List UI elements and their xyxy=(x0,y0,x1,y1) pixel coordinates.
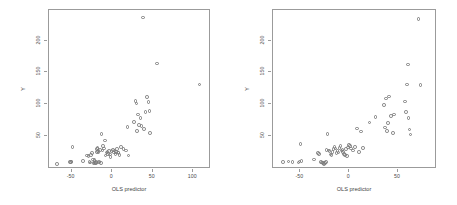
data-point xyxy=(109,155,113,159)
y-tick-mark xyxy=(268,40,271,41)
y-tick-label: 150 xyxy=(259,67,265,76)
data-point xyxy=(135,129,139,133)
data-points-right xyxy=(273,10,435,167)
chart-panel-right: -50050 50100150200 OLS predictor Y xyxy=(229,0,457,205)
x-tick-label: -50 xyxy=(67,173,75,179)
data-point xyxy=(386,121,390,125)
y-tick-label: 100 xyxy=(259,99,265,108)
data-point xyxy=(385,129,389,133)
x-tick-mark xyxy=(71,169,72,172)
data-point xyxy=(408,128,412,132)
data-point xyxy=(281,160,285,164)
data-point xyxy=(312,158,316,162)
figure-scatter-pair: -50050100 50100150200 OLS predictor Y -5… xyxy=(0,0,457,205)
data-point xyxy=(103,139,107,143)
data-point xyxy=(392,113,396,117)
data-point xyxy=(359,130,363,134)
data-point xyxy=(99,161,103,165)
data-point xyxy=(118,153,122,157)
y-tick-label: 200 xyxy=(35,35,41,44)
data-point xyxy=(355,127,359,131)
data-point xyxy=(148,109,152,113)
data-point xyxy=(287,160,291,164)
data-point xyxy=(81,159,85,163)
data-point xyxy=(403,100,407,104)
data-point xyxy=(139,116,143,120)
x-tick-label: 50 xyxy=(394,173,400,179)
data-point xyxy=(419,83,423,87)
data-point xyxy=(351,149,355,153)
data-point xyxy=(300,159,304,163)
data-point xyxy=(100,132,104,136)
y-axis-label-right: Y xyxy=(244,87,250,91)
y-tick-label: 150 xyxy=(35,67,41,76)
y-tick-label: 50 xyxy=(259,132,265,138)
data-point xyxy=(353,145,357,149)
y-tick-mark xyxy=(44,135,47,136)
plot-frame-right xyxy=(272,9,436,168)
data-point xyxy=(198,83,202,87)
y-tick-mark xyxy=(44,103,47,104)
data-point xyxy=(409,133,413,137)
data-point xyxy=(361,146,365,150)
data-point xyxy=(317,152,321,156)
y-tick-mark xyxy=(268,103,271,104)
data-point xyxy=(71,145,75,149)
data-point xyxy=(407,116,411,120)
data-point xyxy=(124,149,128,153)
data-point xyxy=(141,16,145,20)
x-tick-label: 100 xyxy=(188,173,197,179)
data-point xyxy=(155,62,159,66)
data-point xyxy=(126,125,130,129)
x-tick-mark xyxy=(192,169,193,172)
data-points-left xyxy=(49,10,209,167)
data-point xyxy=(132,120,136,124)
plot-frame-left xyxy=(48,9,210,168)
x-tick-mark xyxy=(348,169,349,172)
x-tick-label: 50 xyxy=(149,173,155,179)
data-point xyxy=(404,110,408,114)
data-point xyxy=(147,100,151,104)
data-point xyxy=(144,110,148,114)
data-point xyxy=(387,95,391,99)
data-point xyxy=(291,160,295,164)
x-axis-label-right: OLS predictor xyxy=(337,186,372,192)
data-point xyxy=(330,153,334,157)
data-point xyxy=(417,17,421,21)
y-tick-mark xyxy=(44,71,47,72)
y-tick-mark xyxy=(268,135,271,136)
x-tick-mark xyxy=(299,169,300,172)
y-tick-label: 100 xyxy=(35,99,41,108)
y-axis-label-left: Y xyxy=(20,87,26,91)
data-point xyxy=(345,154,349,158)
data-point xyxy=(405,83,409,87)
y-tick-mark xyxy=(268,71,271,72)
y-tick-label: 50 xyxy=(35,132,41,138)
data-point xyxy=(357,150,361,154)
x-tick-label: 0 xyxy=(110,173,113,179)
data-point xyxy=(135,102,139,106)
data-point xyxy=(142,127,146,131)
data-point xyxy=(55,162,59,166)
y-tick-mark xyxy=(44,40,47,41)
data-point xyxy=(70,160,74,164)
data-point xyxy=(368,121,372,125)
y-tick-label: 200 xyxy=(259,35,265,44)
data-point xyxy=(324,160,328,164)
data-point xyxy=(148,131,152,135)
x-tick-mark xyxy=(152,169,153,172)
data-point xyxy=(145,95,149,99)
x-tick-label: -50 xyxy=(295,173,303,179)
data-point xyxy=(90,151,94,155)
data-point xyxy=(326,132,330,136)
data-point xyxy=(299,142,303,146)
x-tick-mark xyxy=(111,169,112,172)
x-tick-label: 0 xyxy=(347,173,350,179)
chart-panel-left: -50050100 50100150200 OLS predictor Y xyxy=(0,0,228,205)
x-tick-mark xyxy=(397,169,398,172)
data-point xyxy=(374,115,378,119)
data-point xyxy=(391,131,395,135)
data-point xyxy=(127,154,131,158)
x-axis-label-left: OLS predictor xyxy=(112,186,147,192)
data-point xyxy=(406,63,410,67)
